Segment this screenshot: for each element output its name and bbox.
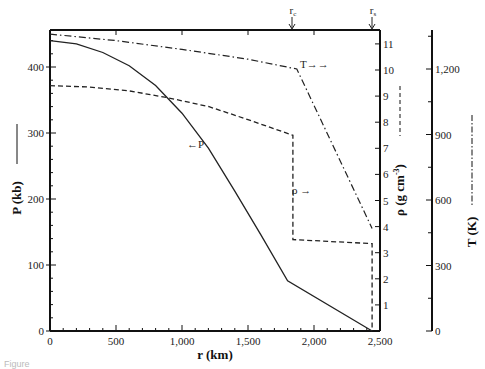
t-tick-label: 600 — [435, 194, 452, 206]
density-curve — [50, 86, 372, 331]
rho-tick-label: 2 — [383, 273, 389, 285]
rho-tick-label: 11 — [383, 38, 394, 50]
rho-tick-label: 3 — [383, 247, 389, 259]
x-axis-ticks: 05001,0001,5002,0002,500 — [47, 30, 393, 347]
rho-tick-label: 10 — [383, 64, 395, 76]
p-tick-label: 200 — [28, 193, 45, 205]
pressure-curve — [50, 41, 372, 331]
svg-text:T (K): T (K) — [464, 217, 479, 247]
rho-curve-label: ρ → — [292, 184, 311, 196]
p-tick-label: 0 — [39, 325, 45, 337]
rho-axis-title: ρ (g cm-3) — [392, 164, 407, 216]
t-curve-label: T→→ — [300, 58, 329, 70]
t-tick-label: 1,200 — [435, 63, 460, 75]
x-tick-label: 1,500 — [236, 335, 261, 347]
svg-text:rs: rs — [370, 4, 377, 18]
rc-marker: rc — [289, 4, 296, 29]
x-tick-label: 2,000 — [302, 335, 327, 347]
x-tick-label: 2,500 — [368, 335, 393, 347]
p-tick-label: 100 — [28, 259, 45, 271]
rho-tick-label: 7 — [383, 142, 389, 154]
x-axis-title: r (km) — [197, 347, 233, 362]
chart: 05001,0001,5002,0002,500 0100200300400 1… — [0, 0, 485, 369]
p-tick-label: 400 — [28, 61, 45, 73]
rho-tick-label: 5 — [383, 195, 389, 207]
x-tick-label: 500 — [108, 335, 125, 347]
t-tick-label: 0 — [435, 325, 441, 337]
rho-tick-label: 8 — [383, 116, 389, 128]
t-tick-label: 900 — [435, 129, 452, 141]
svg-text:P (kb): P (kb) — [9, 181, 24, 215]
p-curve-label: ←P — [187, 138, 204, 150]
p-tick-label: 300 — [28, 127, 45, 139]
t-axis-title: T (K) — [464, 217, 479, 247]
svg-text:ρ (g cm-3): ρ (g cm-3) — [392, 164, 407, 216]
p-axis-title: P (kb) — [9, 181, 24, 215]
x-tick-label: 1,000 — [170, 335, 195, 347]
t-tick-label: 300 — [435, 260, 452, 272]
svg-text:rc: rc — [290, 4, 297, 18]
figure-caption: Figure — [4, 359, 30, 369]
rho-tick-label: 1 — [383, 299, 389, 311]
p-axis-ticks: 0100200300400 — [28, 41, 57, 337]
rho-tick-label: 6 — [383, 168, 389, 180]
plot-frame — [50, 30, 380, 331]
rs-marker: rs — [369, 4, 376, 29]
rho-tick-label: 4 — [383, 221, 389, 233]
rho-tick-label: 9 — [383, 90, 389, 102]
x-tick-label: 0 — [47, 335, 53, 347]
t-axis: 03006009001,200 — [426, 30, 460, 337]
